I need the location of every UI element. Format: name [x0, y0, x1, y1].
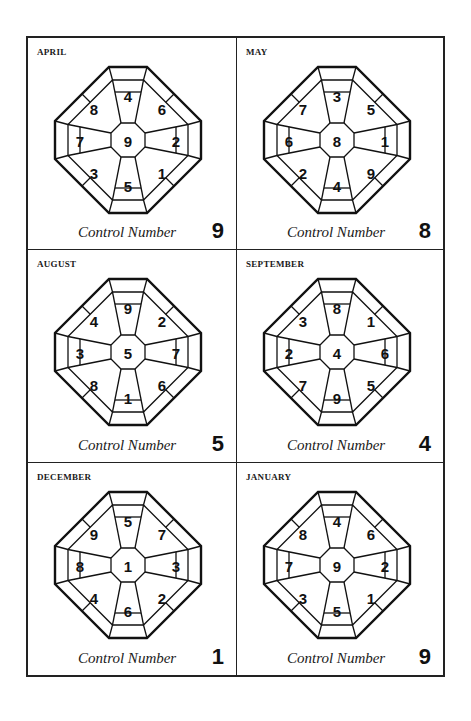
cell-sw-number: 7 — [299, 377, 307, 394]
month-label: SEPTEMBER — [246, 259, 304, 269]
cell-s-number: 5 — [333, 603, 341, 620]
cell-center-number: 5 — [124, 345, 132, 362]
cell-w-number: 7 — [76, 133, 84, 150]
month-label: AUGUST — [37, 259, 76, 269]
control-number-value: 8 — [419, 218, 431, 244]
octagon-diagram: 945276813 — [50, 62, 206, 218]
cell-sw-number: 4 — [90, 590, 99, 607]
control-number-label: Control Number — [78, 650, 176, 667]
cell-e-number: 6 — [381, 345, 389, 362]
octagon-diagram: 156387924 — [50, 487, 206, 643]
control-number-value: 5 — [212, 431, 224, 457]
control-number-label: Control Number — [78, 437, 176, 454]
month-label: DECEMBER — [37, 472, 91, 482]
cell-n-number: 5 — [124, 513, 132, 530]
cell-se-number: 1 — [367, 590, 375, 607]
control-number-value: 9 — [212, 218, 224, 244]
cell-e-number: 7 — [172, 345, 180, 362]
cell-w-number: 6 — [285, 133, 293, 150]
month-label: JANUARY — [246, 472, 291, 482]
cell-s-number: 4 — [333, 178, 342, 195]
cell-se-number: 5 — [367, 377, 375, 394]
cell-s-number: 6 — [124, 603, 132, 620]
cell-ne-number: 6 — [158, 101, 166, 118]
cell-n-number: 9 — [124, 300, 132, 317]
cell-center-number: 4 — [333, 345, 342, 362]
control-number-label: Control Number — [287, 437, 385, 454]
month-panel-september: SEPTEMBER 489621357 Control Number 4 — [237, 250, 443, 463]
cell-n-number: 3 — [333, 88, 341, 105]
cell-nw-number: 9 — [90, 526, 98, 543]
cell-se-number: 2 — [158, 590, 166, 607]
cell-e-number: 3 — [172, 558, 180, 575]
cell-nw-number: 4 — [90, 313, 99, 330]
cell-center-number: 9 — [124, 133, 132, 150]
cell-s-number: 9 — [333, 390, 341, 407]
control-number-value: 9 — [419, 644, 431, 670]
cell-center-number: 8 — [333, 133, 341, 150]
cell-e-number: 2 — [381, 558, 389, 575]
cell-w-number: 2 — [285, 345, 293, 362]
cell-n-number: 8 — [333, 300, 341, 317]
cell-sw-number: 3 — [90, 165, 98, 182]
octagon-diagram: 489621357 — [259, 274, 415, 430]
cell-s-number: 5 — [124, 178, 132, 195]
cell-center-number: 1 — [124, 558, 132, 575]
cell-se-number: 1 — [158, 165, 166, 182]
cell-e-number: 1 — [381, 133, 389, 150]
cell-ne-number: 5 — [367, 101, 375, 118]
cell-nw-number: 7 — [299, 101, 307, 118]
control-number-value: 4 — [419, 431, 431, 457]
cell-ne-number: 1 — [367, 313, 375, 330]
cell-se-number: 9 — [367, 165, 375, 182]
month-panel-january: JANUARY 945276813 Control Number 9 — [237, 463, 443, 675]
cell-center-number: 9 — [333, 558, 341, 575]
month-label: MAY — [246, 47, 268, 57]
month-panel-april: APRIL 945276813 Control Number 9 — [28, 38, 237, 250]
month-panel-may: MAY 834165792 Control Number 8 — [237, 38, 443, 250]
control-number-label: Control Number — [78, 224, 176, 241]
cell-ne-number: 6 — [367, 526, 375, 543]
octagon-diagram: 834165792 — [259, 62, 415, 218]
cell-nw-number: 8 — [299, 526, 307, 543]
cell-ne-number: 2 — [158, 313, 166, 330]
cell-nw-number: 8 — [90, 101, 98, 118]
control-number-label: Control Number — [287, 650, 385, 667]
octagon-diagram: 945276813 — [259, 487, 415, 643]
cell-ne-number: 7 — [158, 526, 166, 543]
cell-se-number: 6 — [158, 377, 166, 394]
cell-sw-number: 3 — [299, 590, 307, 607]
month-panel-august: AUGUST 591732468 Control Number 5 — [28, 250, 237, 463]
control-number-value: 1 — [212, 644, 224, 670]
cell-s-number: 1 — [124, 390, 132, 407]
cell-w-number: 8 — [76, 558, 84, 575]
control-number-label: Control Number — [287, 224, 385, 241]
cell-w-number: 7 — [285, 558, 293, 575]
cell-sw-number: 8 — [90, 377, 98, 394]
octagon-diagram: 591732468 — [50, 274, 206, 430]
cell-n-number: 4 — [333, 513, 342, 530]
cell-n-number: 4 — [124, 88, 133, 105]
cell-nw-number: 3 — [299, 313, 307, 330]
cell-w-number: 3 — [76, 345, 84, 362]
cell-e-number: 2 — [172, 133, 180, 150]
cell-sw-number: 2 — [299, 165, 307, 182]
month-label: APRIL — [37, 47, 67, 57]
month-panel-december: DECEMBER 156387924 Control Number 1 — [28, 463, 237, 675]
control-number-chart-grid: APRIL 945276813 Control Number 9 MAY — [26, 36, 445, 677]
